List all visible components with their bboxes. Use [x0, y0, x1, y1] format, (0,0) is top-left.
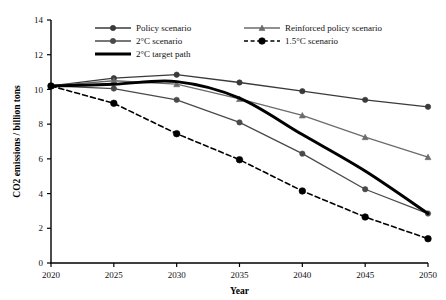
- x-tick-label: 2030: [168, 270, 187, 280]
- x-tick-label: 2045: [356, 270, 375, 280]
- y-tick-label: 2: [39, 223, 44, 233]
- plot-background: [0, 0, 446, 300]
- data-point-circle: [237, 120, 242, 125]
- data-point-circle: [173, 130, 180, 137]
- data-point-circle: [299, 188, 306, 195]
- data-point-circle: [111, 86, 116, 91]
- y-tick-label: 12: [34, 50, 43, 60]
- data-point-circle: [110, 38, 115, 43]
- data-point-circle: [300, 151, 305, 156]
- data-point-circle: [110, 25, 115, 30]
- x-tick-label: 2020: [42, 270, 61, 280]
- data-point-circle: [300, 88, 305, 93]
- legend-label: 1.5°C scenario: [285, 36, 339, 46]
- y-tick-label: 8: [39, 119, 44, 129]
- data-point-circle: [237, 80, 242, 85]
- data-point-circle: [362, 97, 367, 102]
- chart-container: 024681012142020202520302035204020452050 …: [0, 0, 446, 300]
- legend-label: Reinforced policy scenario: [285, 23, 382, 33]
- data-point-circle: [174, 72, 179, 77]
- y-tick-label: 14: [34, 15, 44, 25]
- y-tick-label: 0: [39, 258, 44, 268]
- legend-label: Policy scenario: [136, 23, 192, 33]
- data-point-circle: [111, 100, 118, 107]
- x-tick-label: 2050: [419, 270, 438, 280]
- x-tick-label: 2025: [105, 270, 124, 280]
- legend-label: 2°C scenario: [136, 36, 183, 46]
- data-point-circle: [174, 97, 179, 102]
- x-tick-label: 2035: [231, 270, 250, 280]
- co2-emissions-line-chart: 024681012142020202520302035204020452050 …: [0, 0, 446, 300]
- y-tick-label: 10: [34, 85, 44, 95]
- data-point-circle: [236, 156, 243, 163]
- y-axis-title: CO2 emissions / billion tons: [12, 85, 22, 198]
- y-tick-label: 6: [39, 154, 44, 164]
- data-point-circle: [425, 104, 430, 109]
- data-point-circle: [362, 187, 367, 192]
- legend-label: 2°C target path: [136, 49, 191, 59]
- x-axis-title: Year: [230, 286, 250, 296]
- data-point-circle: [362, 214, 369, 221]
- x-tick-label: 2040: [293, 270, 312, 280]
- data-point-circle: [425, 235, 432, 242]
- y-tick-label: 4: [39, 189, 44, 199]
- data-point-circle: [259, 38, 266, 45]
